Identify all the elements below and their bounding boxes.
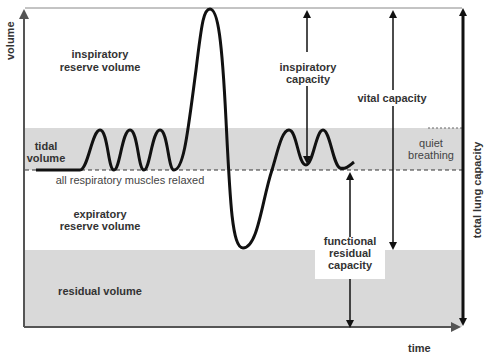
erv-label-1: expiratory (73, 208, 127, 220)
frc-label-1: functional (324, 235, 377, 247)
quiet-label-2: breathing (408, 149, 454, 161)
erv-label-2: reserve volume (60, 220, 141, 232)
irv-label-1: inspiratory (72, 48, 130, 60)
tlc-label: total lung capacity (471, 141, 483, 238)
ic-label-1: inspiratory (280, 61, 338, 73)
vc-label: vital capacity (357, 92, 427, 104)
lung-volume-diagram: volume time inspiratory reserve volume t… (0, 0, 489, 363)
y-axis-label: volume (4, 21, 16, 60)
quiet-label-1: quiet (419, 137, 443, 149)
baseline-label: all respiratory muscles relaxed (56, 174, 205, 186)
rv-label: residual volume (58, 285, 142, 297)
ic-label-2: capacity (286, 73, 331, 85)
irv-label-2: reserve volume (60, 61, 141, 73)
tidal-label-2: volume (27, 152, 66, 164)
frc-label-2: residual (329, 247, 371, 259)
tidal-label-1: tidal (35, 140, 58, 152)
x-axis-label: time (408, 342, 431, 354)
frc-label-3: capacity (328, 259, 373, 271)
